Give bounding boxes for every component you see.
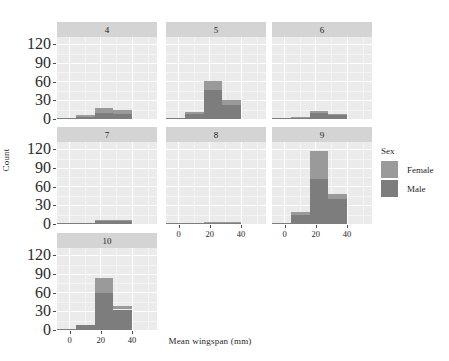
histogram-bar-male xyxy=(166,118,185,119)
histogram-bar-male xyxy=(185,114,204,119)
gridline-major-horizontal xyxy=(57,255,157,256)
gridline-major-vertical xyxy=(69,142,70,224)
histogram-bar-female xyxy=(328,194,347,199)
x-axis-tick-mark xyxy=(210,225,211,228)
gridline-major-horizontal xyxy=(166,186,266,187)
gridline-major-vertical xyxy=(100,37,101,119)
x-axis-tick-mark xyxy=(347,225,348,228)
facet-strip-label: 10 xyxy=(57,233,157,248)
histogram-bar-male xyxy=(310,179,329,224)
histogram-bar-male xyxy=(57,329,76,330)
facet-plot-area xyxy=(166,37,266,119)
gridline-minor-horizontal xyxy=(57,177,157,178)
histogram-bar-male xyxy=(272,118,291,119)
legend-title: Sex xyxy=(381,146,434,156)
gridline-major-vertical xyxy=(315,37,316,119)
y-axis-tick-label: 60 xyxy=(21,284,51,302)
x-axis-tick-label: 0 xyxy=(176,229,180,239)
facet-plot-area xyxy=(166,142,266,224)
gridline-major-horizontal xyxy=(166,205,266,206)
histogram-bar-male xyxy=(95,113,114,119)
x-axis-tick-mark xyxy=(179,225,180,228)
gridline-minor-vertical xyxy=(148,142,149,224)
y-axis-tick-mark xyxy=(53,274,56,275)
gridline-minor-horizontal xyxy=(57,159,157,160)
y-axis-tick-label: 30 xyxy=(21,91,51,109)
facet-panel: 6 xyxy=(272,22,372,119)
gridline-major-horizontal xyxy=(166,44,266,45)
gridline-major-vertical xyxy=(132,37,133,119)
y-axis-title: Count xyxy=(1,130,11,190)
gridline-minor-horizontal xyxy=(166,196,266,197)
histogram-bar-female xyxy=(113,220,132,221)
gridline-major-horizontal xyxy=(57,149,157,150)
y-axis-tick-label: 120 xyxy=(21,35,51,53)
gridline-minor-vertical xyxy=(85,37,86,119)
histogram-bar-male xyxy=(95,293,114,330)
gridline-major-horizontal xyxy=(57,274,157,275)
x-axis-tick-label: 0 xyxy=(67,335,71,345)
y-axis-tick-mark xyxy=(53,82,56,83)
gridline-minor-horizontal xyxy=(57,72,157,73)
y-axis-tick-label: 60 xyxy=(21,178,51,196)
gridline-major-vertical xyxy=(347,37,348,119)
gridline-minor-horizontal xyxy=(166,54,266,55)
gridline-minor-horizontal xyxy=(57,215,157,216)
y-axis-tick-mark xyxy=(53,224,56,225)
gridline-major-vertical xyxy=(69,248,70,330)
gridline-minor-horizontal xyxy=(166,215,266,216)
facet-panel: 4 xyxy=(57,22,157,119)
facet-strip-label: 8 xyxy=(166,127,266,142)
y-axis-tick-label: 90 xyxy=(21,265,51,283)
x-axis-tick-mark xyxy=(70,331,71,334)
x-axis-tick-mark xyxy=(132,331,133,334)
gridline-major-horizontal xyxy=(57,63,157,64)
gridline-minor-horizontal xyxy=(166,177,266,178)
histogram-bar-female xyxy=(328,114,347,115)
histogram-bar-male xyxy=(113,310,132,331)
y-axis-tick-mark xyxy=(53,255,56,256)
y-axis-tick-label: 90 xyxy=(21,54,51,72)
x-axis-tick-label: 20 xyxy=(97,335,106,345)
gridline-major-vertical xyxy=(69,37,70,119)
histogram-bar-female xyxy=(222,222,241,223)
gridline-major-horizontal xyxy=(166,63,266,64)
histogram-bar-female xyxy=(95,278,114,292)
gridline-major-horizontal xyxy=(57,186,157,187)
y-axis-tick-label: 0 xyxy=(21,321,51,339)
facet-plot-area xyxy=(272,37,372,119)
gridline-minor-vertical xyxy=(116,142,117,224)
gridline-major-horizontal xyxy=(57,205,157,206)
histogram-bar-male xyxy=(113,221,132,224)
y-axis-tick-mark xyxy=(53,149,56,150)
gridline-major-horizontal xyxy=(57,81,157,82)
gridline-major-horizontal xyxy=(272,81,372,82)
legend-item-label: Male xyxy=(407,184,426,194)
y-axis-tick-mark xyxy=(53,293,56,294)
y-axis-tick-mark xyxy=(53,311,56,312)
gridline-major-vertical xyxy=(100,142,101,224)
histogram-bar-male xyxy=(57,118,76,119)
gridline-minor-horizontal xyxy=(272,72,372,73)
chart-root: Count Mean wingspan (mm) 45678910 030609… xyxy=(0,0,449,361)
histogram-bar-male xyxy=(272,223,291,224)
y-axis-tick-label: 0 xyxy=(21,110,51,128)
gridline-minor-vertical xyxy=(363,37,364,119)
y-axis-tick-label: 0 xyxy=(21,215,51,233)
histogram-bar-male xyxy=(76,117,95,119)
y-axis-tick-label: 120 xyxy=(21,140,51,158)
gridline-major-vertical xyxy=(241,142,242,224)
gridline-minor-vertical xyxy=(85,248,86,330)
x-axis-tick-label: 0 xyxy=(282,229,286,239)
gridline-major-horizontal xyxy=(57,168,157,169)
gridline-major-vertical xyxy=(284,37,285,119)
histogram-bar-female xyxy=(95,220,114,221)
legend-item: Female xyxy=(381,161,434,178)
facet-strip-label: 7 xyxy=(57,127,157,142)
y-axis-tick-mark xyxy=(53,168,56,169)
y-axis-tick-mark xyxy=(53,330,56,331)
gridline-major-vertical xyxy=(132,142,133,224)
x-axis-tick-label: 40 xyxy=(237,229,246,239)
gridline-major-horizontal xyxy=(57,100,157,101)
gridline-minor-horizontal xyxy=(166,72,266,73)
